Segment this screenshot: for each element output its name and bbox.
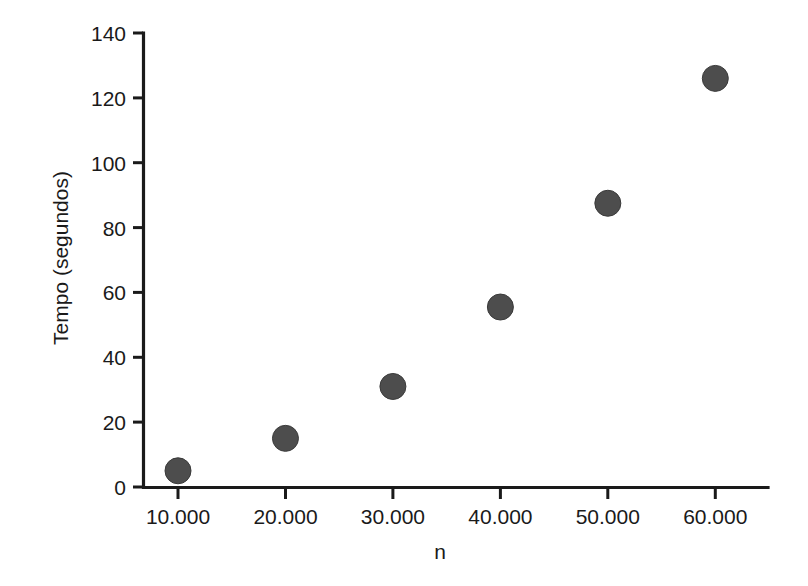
y-tick-label: 60 bbox=[103, 281, 126, 304]
x-tick-label: 50.000 bbox=[576, 505, 640, 528]
data-point bbox=[702, 65, 728, 91]
x-tick-label: 60.000 bbox=[683, 505, 747, 528]
x-tick-label: 30.000 bbox=[361, 505, 425, 528]
data-point bbox=[595, 190, 621, 216]
data-point bbox=[272, 425, 298, 451]
y-axis-title: Tempo (segundos) bbox=[49, 171, 72, 345]
scatter-plot-figure: 140 120 100 80 60 40 20 0 10.000 20.000 … bbox=[0, 0, 808, 586]
x-axis-title: n bbox=[434, 540, 446, 563]
y-tick-label: 120 bbox=[91, 87, 126, 110]
y-tick-label: 80 bbox=[103, 217, 126, 240]
data-point bbox=[487, 294, 513, 320]
x-tick-label: 20.000 bbox=[253, 505, 317, 528]
plot-canvas: 140 120 100 80 60 40 20 0 10.000 20.000 … bbox=[0, 0, 808, 586]
y-tick-label: 0 bbox=[114, 476, 126, 499]
y-tick-label: 100 bbox=[91, 152, 126, 175]
x-tick-label: 10.000 bbox=[146, 505, 210, 528]
data-point bbox=[165, 458, 191, 484]
y-tick-label: 140 bbox=[91, 22, 126, 45]
x-tick-label: 40.000 bbox=[468, 505, 532, 528]
y-tick-label: 40 bbox=[103, 346, 126, 369]
data-point bbox=[380, 373, 406, 399]
y-tick-label: 20 bbox=[103, 411, 126, 434]
